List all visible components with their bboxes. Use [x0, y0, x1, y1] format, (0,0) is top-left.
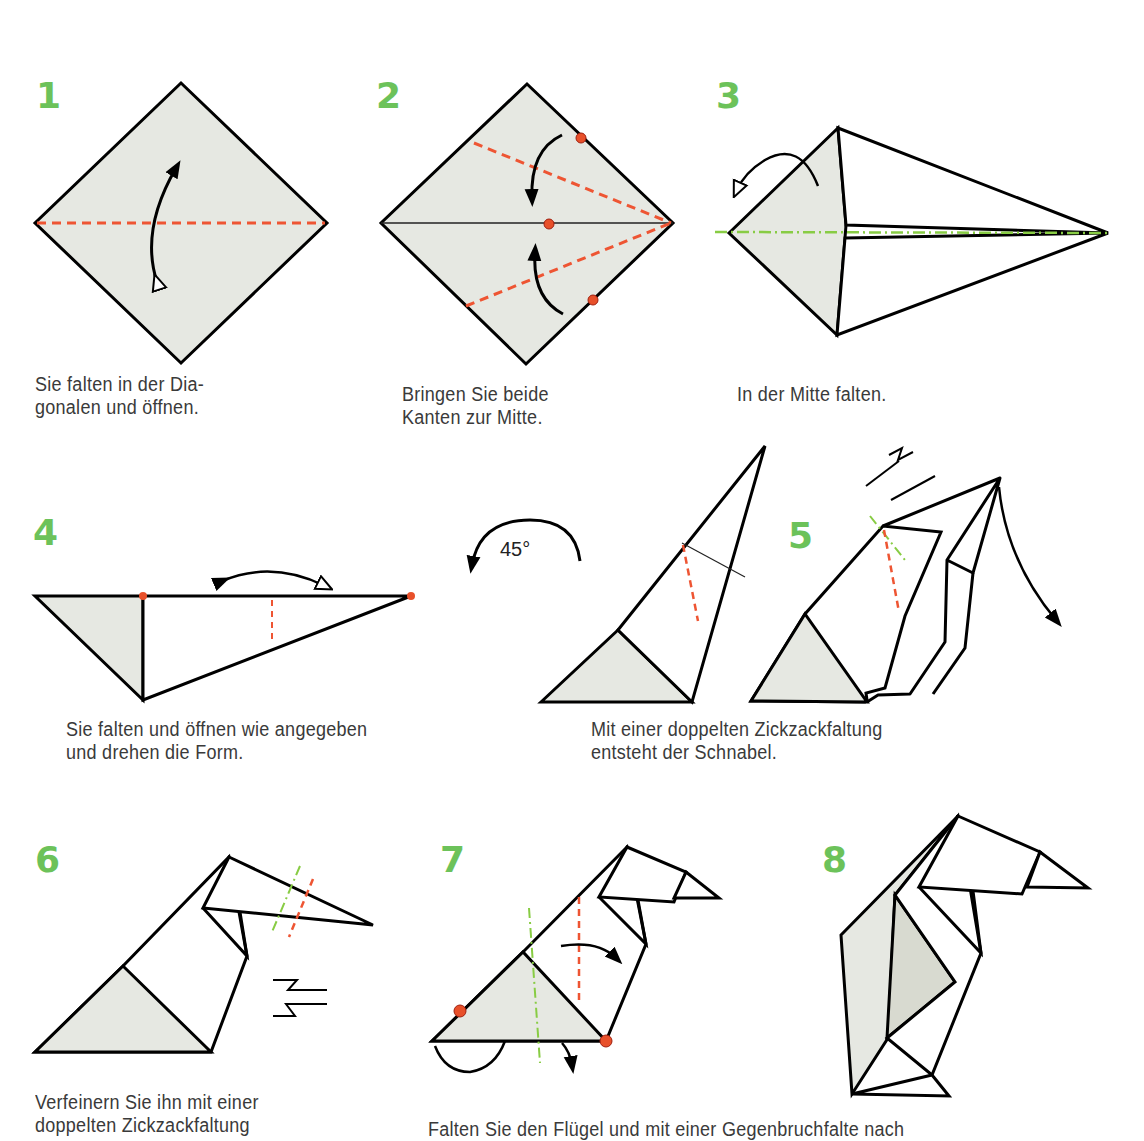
step-7: 7: [432, 839, 719, 1072]
caption-line: und drehen die Form.: [66, 741, 367, 764]
fold-arrow-icon: [562, 1043, 572, 1065]
step-1: 1: [35, 75, 327, 363]
zigzag-fold-symbol-icon: [273, 980, 327, 1016]
step-number-8: 8: [822, 839, 847, 880]
caption-line: In der Mitte falten.: [737, 383, 886, 406]
step-5: 5: [751, 448, 1056, 702]
step-number-7: 7: [440, 839, 465, 880]
paper-beak-edge: [933, 573, 973, 694]
caption-line: gonalen und öffnen.: [35, 396, 204, 419]
reference-dot: [588, 295, 598, 305]
step-1-caption: Sie falten in der Dia- gonalen und öffne…: [35, 373, 204, 419]
caption-line: Kanten zur Mitte.: [402, 406, 549, 429]
step-3: 3: [715, 75, 1110, 335]
caption-line: Bringen Sie beide: [402, 383, 549, 406]
step-4: 4: [33, 512, 415, 700]
caption-line: entsteht der Schnabel.: [591, 741, 883, 764]
reference-dot: [407, 592, 415, 600]
paper-left-triangle: [35, 596, 143, 700]
fold-arrow-icon: [999, 487, 1056, 620]
caption-line: Falten Sie den Flügel und mit einer Gege…: [428, 1118, 904, 1141]
step-number-2: 2: [376, 75, 401, 116]
rotate-45-indicator: 45°: [472, 520, 580, 565]
step-6: 6: [35, 839, 373, 1052]
step-2-caption: Bringen Sie beide Kanten zur Mitte.: [402, 383, 549, 429]
step-5-caption: Mit einer doppelten Zickzackfaltung ents…: [591, 718, 883, 764]
step-number-4: 4: [33, 512, 58, 553]
step-2: 2: [376, 75, 673, 364]
reference-dot: [454, 1005, 466, 1017]
reference-dot: [139, 592, 147, 600]
paper-head: [919, 816, 1040, 894]
zigzag-fold-symbol-icon: [866, 448, 935, 500]
paper-top-flap: [838, 128, 1108, 233]
step-number-5: 5: [788, 515, 813, 556]
paper-tail: [852, 1075, 949, 1096]
step-3-caption: In der Mitte falten.: [737, 383, 886, 406]
origami-instructions-diagram: 1 2 3 4 45°: [0, 0, 1144, 1141]
paper-bottom-flap: [837, 233, 1108, 335]
step-number-3: 3: [716, 75, 741, 116]
rotation-label: 45°: [500, 538, 530, 560]
reference-dot: [576, 133, 586, 143]
paper-square: [381, 84, 673, 364]
caption-line: Sie falten in der Dia-: [35, 373, 204, 396]
fold-and-unfold-arrow-icon: [222, 572, 325, 586]
step-number-6: 6: [35, 839, 60, 880]
caption-line: Sie falten und öffnen wie angegeben: [66, 718, 367, 741]
caption-line: Mit einer doppelten Zickzackfaltung: [591, 718, 883, 741]
caption-line: doppelten Zickzackfaltung: [35, 1114, 259, 1137]
step-4-rotated-shape: [541, 446, 765, 702]
caption-line: Verfeinern Sie ihn mit einer: [35, 1091, 259, 1114]
inside-reverse-fold-arrow-icon: [435, 1041, 505, 1072]
step-8: 8: [822, 816, 1088, 1096]
reference-dot: [544, 219, 554, 229]
step-6-caption: Verfeinern Sie ihn mit einer doppelten Z…: [35, 1091, 259, 1137]
paper-head: [599, 847, 686, 902]
reference-dot: [600, 1035, 612, 1047]
step-7-caption: Falten Sie den Flügel und mit einer Gege…: [428, 1118, 904, 1141]
step-number-1: 1: [36, 75, 61, 116]
paper-right-triangle: [143, 596, 411, 700]
step-4-caption: Sie falten und öffnen wie angegeben und …: [66, 718, 367, 764]
